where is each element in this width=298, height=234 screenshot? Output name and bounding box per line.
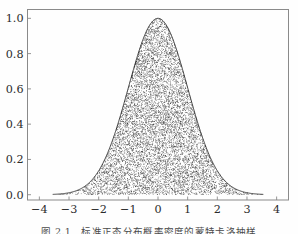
figure-container: −4−3−2−101234 0.00.20.40.60.81.0 图 2.1 标… — [0, 0, 298, 234]
x-tick-label: 2 — [214, 203, 221, 215]
x-tick-label: −2 — [90, 203, 107, 215]
y-axis-tick-labels: 0.00.20.40.60.81.0 — [6, 12, 24, 201]
figure-caption: 图 2.1 标准正态分布概率密度的蒙特卡洛抽样 — [0, 226, 298, 234]
x-axis-tick-labels: −4−3−2−101234 — [31, 203, 280, 215]
x-tick-label: 1 — [184, 203, 191, 215]
scatter-point-cloud — [59, 18, 262, 195]
y-axis-ticks — [28, 18, 32, 194]
x-tick-label: −3 — [61, 203, 78, 215]
y-tick-label: 0.8 — [6, 48, 24, 61]
y-tick-label: 0.2 — [6, 153, 24, 166]
x-axis-ticks — [39, 197, 276, 201]
x-tick-label: 3 — [243, 203, 250, 215]
x-tick-label: 0 — [154, 203, 161, 215]
x-tick-label: −4 — [31, 203, 48, 215]
gaussian-monte-carlo-chart: −4−3−2−101234 0.00.20.40.60.81.0 — [0, 0, 298, 214]
y-tick-label: 0.6 — [6, 83, 24, 96]
x-tick-label: −1 — [120, 203, 137, 215]
y-tick-label: 0.4 — [6, 118, 24, 131]
x-tick-label: 4 — [273, 203, 280, 215]
y-tick-label: 0.0 — [6, 189, 24, 202]
plot-frame — [28, 10, 289, 201]
y-tick-label: 1.0 — [6, 12, 24, 25]
plot-area: −4−3−2−101234 0.00.20.40.60.81.0 — [0, 0, 298, 214]
